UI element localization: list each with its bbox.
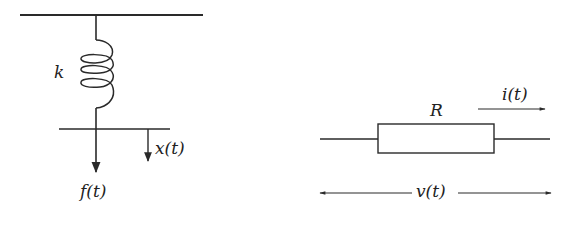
displacement-label: x(t) [155,140,185,157]
spring-coil [81,40,114,108]
resistor-body [378,124,494,153]
spring-constant-label: k [54,64,64,81]
resistor-label: R [430,102,443,119]
voltage-label: v(t) [414,183,448,200]
force-label: f(t) [80,183,106,200]
current-label: i(t) [502,86,528,103]
